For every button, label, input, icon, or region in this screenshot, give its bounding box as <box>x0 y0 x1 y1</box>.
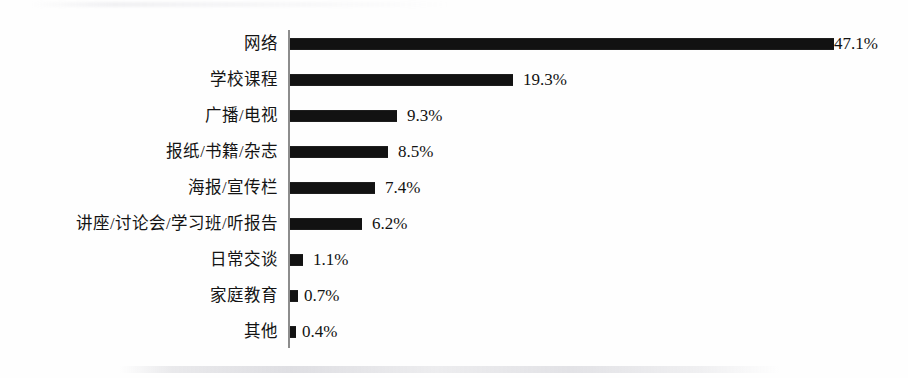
bar-row: 讲座/讨论会/学习班/听报告 6.2% <box>0 206 908 242</box>
bar-segment <box>290 254 303 266</box>
bar-row: 学校课程 19.3% <box>0 62 908 98</box>
bar-value-label: 6.2% <box>372 215 407 233</box>
category-label: 海报/宣传栏 <box>0 179 278 197</box>
category-label: 报纸/书籍/杂志 <box>0 143 278 161</box>
bar-segment <box>290 326 296 338</box>
category-label: 其他 <box>0 323 278 341</box>
bar-value-label: 47.1% <box>834 35 878 53</box>
bar-segment <box>290 110 397 122</box>
category-label: 广播/电视 <box>0 107 278 125</box>
bar-row: 海报/宣传栏 7.4% <box>0 170 908 206</box>
bar-segment <box>290 146 388 158</box>
bar-row: 家庭教育 0.7% <box>0 278 908 314</box>
bar-row: 广播/电视 9.3% <box>0 98 908 134</box>
bar-row: 日常交谈 1.1% <box>0 242 908 278</box>
bar-segment <box>290 182 375 194</box>
bar-segment <box>290 290 298 302</box>
bar-chart-figure: 网络 47.1% 学校课程 19.3% 广播/电视 9.3% 报纸/书籍/杂志 … <box>0 0 908 378</box>
bar-value-label: 9.3% <box>407 107 442 125</box>
bar-value-label: 19.3% <box>523 71 567 89</box>
bar-row: 报纸/书籍/杂志 8.5% <box>0 134 908 170</box>
bar-value-label: 8.5% <box>398 143 433 161</box>
bar-value-label: 0.4% <box>302 323 337 341</box>
bar-value-label: 7.4% <box>385 179 420 197</box>
plot-area: 网络 47.1% 学校课程 19.3% 广播/电视 9.3% 报纸/书籍/杂志 … <box>0 0 908 378</box>
bar-value-label: 0.7% <box>304 287 339 305</box>
bar-value-label: 1.1% <box>313 251 348 269</box>
category-label: 讲座/讨论会/学习班/听报告 <box>0 215 278 233</box>
bar-segment <box>290 218 362 230</box>
category-label: 学校课程 <box>0 71 278 89</box>
category-label: 家庭教育 <box>0 287 278 305</box>
category-label: 网络 <box>0 35 278 53</box>
bar-row: 网络 47.1% <box>0 26 908 62</box>
category-label: 日常交谈 <box>0 251 278 269</box>
bar-segment <box>290 38 834 50</box>
bar-row: 其他 0.4% <box>0 314 908 350</box>
bar-segment <box>290 74 513 86</box>
